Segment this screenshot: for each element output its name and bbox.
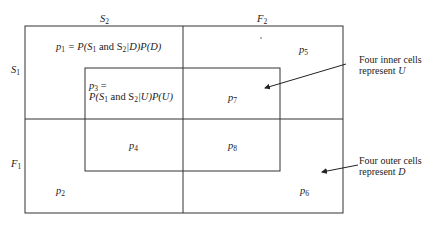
cell-p2: p2	[56, 185, 65, 196]
cell-p1-formula: p1 = P(S1 and S2|D)P(D)	[56, 41, 161, 52]
cell-p6: p6	[300, 185, 309, 196]
axis-label-s1: S1	[11, 64, 20, 75]
cell-p8: p8	[228, 140, 237, 151]
cell-p7: p7	[228, 92, 237, 103]
axis-label-f1: F1	[11, 158, 21, 169]
cell-p5: p5	[299, 44, 308, 55]
stray-dot	[260, 37, 262, 39]
axis-label-f2: F2	[257, 13, 267, 24]
cell-p4: p4	[129, 140, 138, 151]
outer-arrow	[322, 165, 358, 172]
axis-label-s2: S2	[100, 13, 109, 24]
diagram-canvas	[0, 0, 440, 226]
annotation-outer-cells: Four outer cells represent D	[359, 155, 422, 177]
cell-p3-formula: p3 = P(S1 and S2|U)P(U)	[89, 80, 173, 102]
annotation-inner-cells: Four inner cells represent U	[359, 54, 422, 76]
